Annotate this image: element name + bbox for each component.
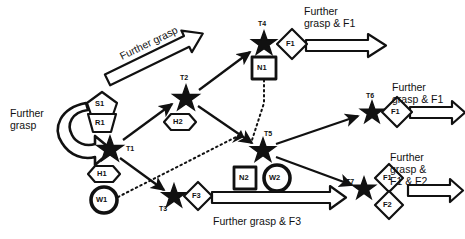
- block-arrow-t4: [306, 34, 386, 57]
- star-t6: [361, 101, 384, 123]
- diagram-graphics: [0, 0, 465, 239]
- node-label-t7: T7: [346, 178, 354, 186]
- edge-t5-t6: [276, 116, 358, 144]
- edge-t2-t5: [198, 106, 252, 143]
- shape-label-h2: H2: [173, 118, 183, 126]
- star-t3: [162, 184, 186, 207]
- node-label-t1: T1: [126, 145, 134, 153]
- star-t2: [173, 85, 199, 110]
- shape-label-s1: S1: [95, 100, 104, 108]
- shape-label-w1: W1: [96, 196, 107, 204]
- edge-t2-t4: [199, 52, 250, 90]
- shape-label-r1: R1: [95, 119, 105, 127]
- star-t7: [353, 177, 376, 199]
- star-t5: [251, 138, 276, 161]
- shape-label-n1: N1: [257, 64, 267, 72]
- caption-further-grasp-f1-mid: Further grasp & F1: [392, 82, 443, 106]
- node-label-t3: T3: [159, 205, 167, 213]
- shape-label-n2: N2: [239, 174, 249, 182]
- edge-dotted-arrowhead: [232, 130, 244, 143]
- shape-label-f1-t4: F1: [286, 40, 295, 48]
- star-t4: [252, 31, 277, 54]
- caption-further-grasp-f3: Further grasp & F3: [213, 216, 301, 228]
- shape-label-f1-t6: F1: [391, 108, 400, 116]
- node-label-t5: T5: [264, 130, 272, 138]
- diagram-canvas: T1 T2 T3 T4 T5 T6 T7 S1 R1 H1 W1 H2 N1 N…: [0, 0, 465, 239]
- caption-further-grasp-f1-f2: Further grasp & F1 & F2: [390, 152, 427, 187]
- shape-label-h1: H1: [97, 170, 107, 178]
- node-label-t6: T6: [366, 92, 374, 100]
- edge-w1-h2-dotted: [118, 135, 240, 197]
- caption-further-grasp-f1-top: Further grasp & F1: [304, 6, 355, 30]
- shape-label-f2-t7: F2: [383, 201, 392, 209]
- edge-n1-t5-dotted: [252, 80, 264, 140]
- caption-further-grasp-left: Further grasp: [10, 108, 44, 132]
- node-label-t2: T2: [180, 74, 188, 82]
- node-label-t4: T4: [258, 20, 266, 28]
- shape-label-f3-t3: F3: [192, 192, 201, 200]
- shape-label-w2: W2: [269, 174, 280, 182]
